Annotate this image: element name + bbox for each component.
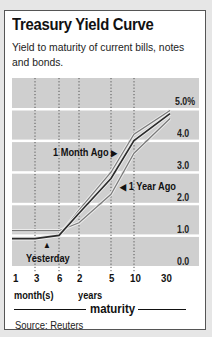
x-tick-6-months: 6 xyxy=(57,272,62,284)
x-unit-years: years xyxy=(78,289,102,301)
x-tick-1-month: 1 xyxy=(13,272,18,284)
x-tick-2-years: 2 xyxy=(77,272,82,284)
y-tick-4: 4.0 xyxy=(177,128,189,139)
x-tick-3-months: 3 xyxy=(34,272,39,284)
label-1-month-ago-text: 1 Month Ago xyxy=(53,146,109,158)
y-tick-1: 1.0 xyxy=(177,224,189,235)
y-tick-0: 0.0 xyxy=(177,256,189,267)
y-tick-3: 3.0 xyxy=(177,160,189,171)
y-tick-2: 2.0 xyxy=(177,192,189,203)
x-axis-title-row: maturity xyxy=(14,301,174,317)
arrow-right-icon: ▶ xyxy=(111,148,117,158)
arrow-up-icon: ▲ xyxy=(43,240,51,250)
y-tick-5: 5.0% xyxy=(175,96,195,107)
arrow-left-icon: ◀ xyxy=(120,182,126,192)
x-tick-30-years: 30 xyxy=(161,272,172,284)
x-tick-10-years: 10 xyxy=(130,272,141,284)
label-1-year-ago-text: 1 Year Ago xyxy=(129,180,176,192)
source-credit: Source: Reuters xyxy=(15,319,83,331)
x-tick-5-years: 5 xyxy=(109,272,114,284)
rule-left xyxy=(14,309,86,310)
x-axis-title: maturity xyxy=(90,301,135,316)
x-unit-months: month(s) xyxy=(14,289,54,301)
rule-right xyxy=(138,309,186,310)
label-yesterday: Yesterday xyxy=(26,252,70,264)
label-1-month-ago: 1 Month Ago ▶ xyxy=(53,146,117,158)
label-1-year-ago: ◀ 1 Year Ago xyxy=(120,180,176,192)
